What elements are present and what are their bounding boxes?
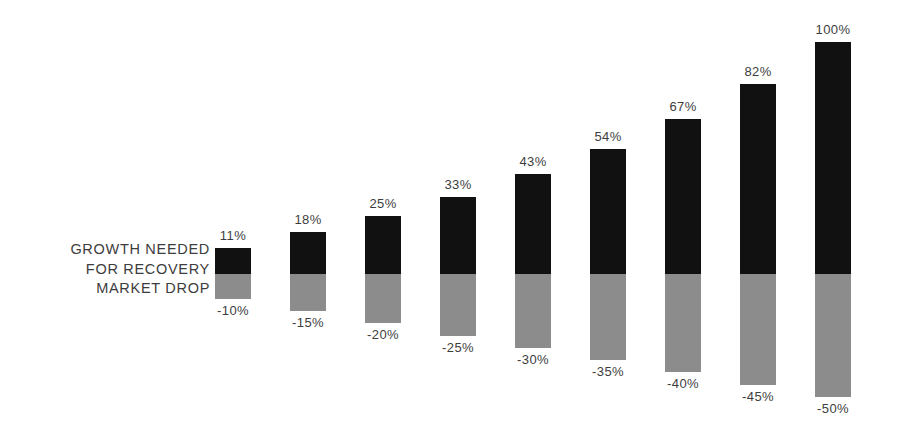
bar-segment-growth-needed[interactable]	[665, 119, 701, 274]
bar-segment-growth-needed[interactable]	[365, 216, 401, 274]
bar-label-market-drop: -20%	[367, 327, 399, 342]
bar-segment-growth-needed[interactable]	[440, 197, 476, 274]
bar-label-growth-needed: 82%	[744, 64, 771, 79]
bar-group[interactable]: 43%-30%	[515, 0, 551, 433]
plot-area: 11%-10%18%-15%25%-20%33%-25%43%-30%54%-3…	[0, 0, 899, 433]
bar-label-market-drop: -50%	[817, 401, 849, 416]
bar-segment-market-drop[interactable]	[515, 274, 551, 348]
bar-label-market-drop: -40%	[667, 376, 699, 391]
bar-group[interactable]: 67%-40%	[665, 0, 701, 433]
bar-label-growth-needed: 18%	[294, 212, 321, 227]
bar-group[interactable]: 33%-25%	[440, 0, 476, 433]
bar-label-growth-needed: 33%	[444, 177, 471, 192]
bar-group[interactable]: 11%-10%	[215, 0, 251, 433]
bar-segment-market-drop[interactable]	[290, 274, 326, 311]
bar-label-growth-needed: 43%	[519, 154, 546, 169]
bar-group[interactable]: 18%-15%	[290, 0, 326, 433]
bar-group[interactable]: 82%-45%	[740, 0, 776, 433]
bar-label-growth-needed: 54%	[594, 129, 621, 144]
bar-label-growth-needed: 67%	[669, 99, 696, 114]
bar-label-growth-needed: 11%	[220, 228, 246, 243]
bar-group[interactable]: 54%-35%	[590, 0, 626, 433]
bar-segment-market-drop[interactable]	[815, 274, 851, 397]
bar-segment-market-drop[interactable]	[740, 274, 776, 385]
bar-label-market-drop: -25%	[442, 340, 474, 355]
bar-group[interactable]: 100%-50%	[815, 0, 851, 433]
bar-segment-growth-needed[interactable]	[815, 42, 851, 274]
bar-label-growth-needed: 100%	[816, 22, 851, 37]
bar-segment-market-drop[interactable]	[665, 274, 701, 372]
bar-segment-market-drop[interactable]	[440, 274, 476, 336]
bar-label-market-drop: -10%	[217, 303, 249, 318]
bar-segment-growth-needed[interactable]	[590, 149, 626, 274]
bar-label-market-drop: -35%	[592, 364, 624, 379]
bar-segment-growth-needed[interactable]	[515, 174, 551, 274]
bar-label-market-drop: -15%	[292, 315, 324, 330]
bar-label-market-drop: -45%	[742, 389, 774, 404]
bar-label-growth-needed: 25%	[369, 196, 396, 211]
chart-root: GROWTH NEEDED FOR RECOVERY MARKET DROP 1…	[0, 0, 899, 433]
bar-segment-growth-needed[interactable]	[215, 248, 251, 274]
bar-label-market-drop: -30%	[517, 352, 549, 367]
bar-segment-market-drop[interactable]	[215, 274, 251, 299]
bar-segment-market-drop[interactable]	[590, 274, 626, 360]
bar-segment-growth-needed[interactable]	[740, 84, 776, 274]
bar-group[interactable]: 25%-20%	[365, 0, 401, 433]
bar-segment-growth-needed[interactable]	[290, 232, 326, 274]
bar-segment-market-drop[interactable]	[365, 274, 401, 323]
